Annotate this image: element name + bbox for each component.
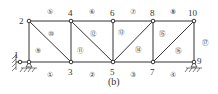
member-label-11: ⑪ (77, 47, 84, 54)
member-16 (153, 21, 194, 62)
node-label-2: 2 (19, 16, 24, 26)
node-8 (151, 19, 155, 23)
member-label-7: ⑦ (130, 8, 136, 15)
figure-caption: (b) (108, 76, 120, 88)
node-support-joint (27, 60, 31, 64)
member-label-12: ⑫ (90, 30, 97, 37)
member-label-5: ⑤ (47, 8, 53, 15)
node-6 (111, 19, 115, 23)
node-label-10: 10 (188, 8, 198, 18)
member-label-10: ⑩ (48, 30, 54, 37)
member-label-3: ③ (130, 71, 136, 78)
node-4 (69, 19, 73, 23)
node-2 (27, 19, 31, 23)
truss-diagram: 1 2 3 4 5 6 7 8 9 10 ① ② ③ ④ ⑤ ⑥ ⑦ ⑧ ⑨ ⑩… (0, 0, 218, 94)
node-3 (69, 60, 73, 64)
member-label-13: ⑬ (118, 29, 125, 36)
member-label-8: ⑧ (170, 8, 176, 15)
node-5 (111, 60, 115, 64)
member-label-17: ⑰ (202, 39, 209, 46)
member-label-1: ① (47, 71, 53, 78)
node-1 (18, 60, 22, 64)
member-label-4: ④ (170, 71, 176, 78)
member-12 (71, 21, 113, 62)
member-14 (113, 21, 153, 62)
node-10 (192, 19, 196, 23)
node-label-4: 4 (68, 8, 73, 18)
member-label-2: ② (89, 71, 95, 78)
member-label-16: ⑯ (175, 47, 182, 54)
member-label-9: ⑨ (35, 47, 41, 54)
node-label-9: 9 (197, 56, 202, 66)
node-7 (151, 60, 155, 64)
node-label-3: 3 (68, 67, 73, 77)
member-label-14: ⑭ (135, 46, 142, 53)
node-label-1: 1 (14, 50, 19, 60)
node-label-8: 8 (150, 8, 155, 18)
member-10 (29, 21, 71, 62)
node-label-7: 7 (150, 67, 155, 77)
member-label-6: ⑥ (89, 8, 95, 15)
node-label-6: 6 (110, 8, 115, 18)
member-label-15: ⑮ (159, 30, 166, 37)
node-9 (192, 60, 196, 64)
